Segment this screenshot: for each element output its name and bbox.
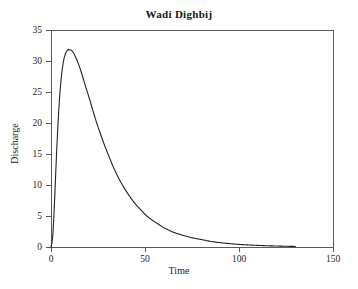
chart-figure: Wadi Dighbij 35 <box>0 0 358 289</box>
x-tick-label: 50 <box>130 255 160 265</box>
y-tick-label: 25 <box>20 88 42 98</box>
axis-frame <box>51 30 333 247</box>
y-tick-label: 5 <box>20 212 42 222</box>
y-tick-label: 10 <box>20 181 42 191</box>
x-axis-label: Time <box>0 265 358 276</box>
y-tick-label: 15 <box>20 150 42 160</box>
y-axis-ticks <box>46 30 51 247</box>
x-axis-ticks <box>51 247 333 252</box>
y-tick-label: 20 <box>20 119 42 129</box>
x-tick-label: 0 <box>36 255 66 265</box>
x-tick-label: 100 <box>224 255 254 265</box>
y-tick-label: 35 <box>20 26 42 36</box>
discharge-curve <box>51 50 295 247</box>
x-tick-label: 150 <box>318 255 348 265</box>
y-tick-label: 30 <box>20 57 42 67</box>
plot-canvas <box>0 0 358 289</box>
y-tick-label: 0 <box>20 243 42 253</box>
y-axis-label: Discharge <box>9 94 20 194</box>
